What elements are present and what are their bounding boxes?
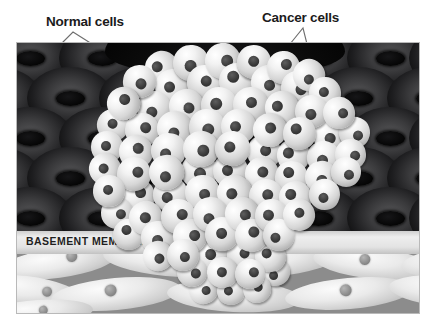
normal-cell-nucleus <box>416 171 420 186</box>
normal-cell-nucleus <box>376 211 405 226</box>
normal-cell-nucleus <box>416 91 420 106</box>
stroma-cell-nucleus <box>359 254 371 265</box>
stroma-cell-nucleus <box>340 284 353 297</box>
stroma-cell-nucleus <box>153 254 166 263</box>
stroma-cell-nucleus <box>65 254 77 262</box>
normal-cell-nucleus <box>88 211 117 226</box>
cancer-invasion-figure: Normal cells Cancer cells BASEMENT MEMBR… <box>0 0 435 330</box>
stroma-cell-nucleus <box>257 254 269 264</box>
normal-cell-nucleus <box>344 91 373 106</box>
normal-cell-nucleus <box>272 91 301 106</box>
normal-cell-nucleus <box>376 131 405 146</box>
illustration-frame: BASEMENT MEMBRANE <box>16 42 420 314</box>
normal-cell-nucleus <box>304 131 333 146</box>
stroma-region <box>17 254 419 314</box>
normal-cell-nucleus <box>17 211 45 226</box>
normal-cell-nucleus <box>56 91 85 106</box>
normal-cell-nucleus <box>232 131 261 146</box>
normal-cell-nucleus <box>232 211 261 226</box>
stroma-cell-nucleus <box>104 284 117 297</box>
basement-membrane-label: BASEMENT MEMBRANE <box>26 235 157 247</box>
normal-cell-nucleus <box>17 131 45 146</box>
stroma-cell <box>166 277 301 314</box>
normal-cell-nucleus <box>88 131 117 146</box>
normal-cell-nucleus <box>304 211 333 226</box>
normal-cell-nucleus <box>200 91 229 106</box>
stroma-cell-nucleus <box>39 305 49 314</box>
normal-cell-nucleus <box>56 171 85 186</box>
normal-cell-nucleus <box>160 211 189 226</box>
normal-cell-nucleus <box>376 51 405 66</box>
epithelium-region <box>17 43 419 231</box>
normal-cell-nucleus <box>272 171 301 186</box>
normal-cell-nucleus <box>128 171 157 186</box>
normal-cell-nucleus <box>128 91 157 106</box>
stroma-cell-nucleus <box>221 286 235 300</box>
normal-cell-nucleus <box>17 51 45 66</box>
normal-cell-nucleus <box>344 171 373 186</box>
normal-cell-nucleus <box>160 131 189 146</box>
normal-cell-nucleus <box>200 171 229 186</box>
basement-membrane-band: BASEMENT MEMBRANE <box>17 231 419 254</box>
